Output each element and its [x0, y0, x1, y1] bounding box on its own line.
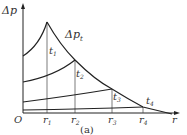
r1-label: r1 — [43, 114, 52, 126]
y-axis-arrow-icon — [21, 3, 25, 9]
envelope-label: Δpt — [64, 28, 83, 43]
pressure-distribution-diagram: Δp Δpt t1 t2 t3 t4 O r1 r2 r3 r4 r (a) — [0, 0, 187, 135]
figure-caption: (a) — [80, 124, 94, 135]
curve-t3 — [23, 89, 112, 102]
t1-label: t1 — [49, 45, 57, 57]
curve-t1 — [23, 22, 47, 56]
x-axis-label: r — [172, 114, 178, 125]
t2-label: t2 — [76, 68, 84, 80]
origin-label: O — [14, 114, 22, 125]
r4-label: r4 — [139, 114, 148, 126]
y-axis-label: Δp — [1, 4, 17, 17]
curve-t4 — [23, 107, 143, 110]
curve-t2 — [23, 60, 75, 82]
r3-label: r3 — [108, 114, 117, 126]
t3-label: t3 — [113, 91, 121, 103]
t4-label: t4 — [146, 95, 154, 107]
r2-label: r2 — [71, 114, 80, 126]
